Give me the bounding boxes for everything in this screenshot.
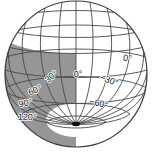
globe-diagram: 30° 0° −30° 0° 60° −60° 90° 120° xyxy=(0,0,155,157)
label-0-center: 0° xyxy=(74,69,83,79)
globe-graticule-figure: 30° 0° −30° 0° 60° −60° 90° 120° xyxy=(0,0,155,157)
label-120: 120° xyxy=(18,112,37,123)
pole-marker xyxy=(72,122,80,126)
